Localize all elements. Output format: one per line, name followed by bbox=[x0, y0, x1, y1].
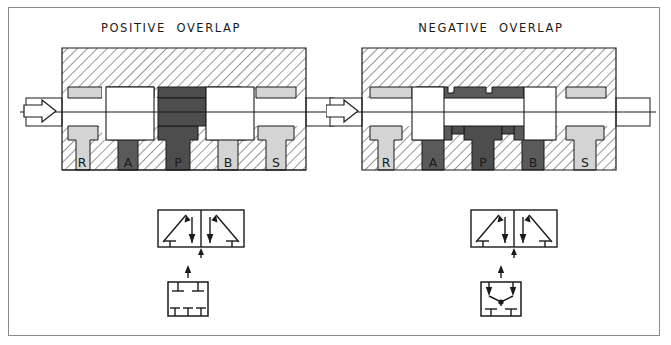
symbol-left-arrowheads-positive bbox=[185, 215, 196, 243]
figure-root: POSITIVE OVERLAP bbox=[0, 0, 671, 345]
panel-positive-overlap: POSITIVE OVERLAP bbox=[6, 0, 336, 345]
port-label-S: S bbox=[272, 155, 280, 170]
symbol-left-arrowheads-negative bbox=[498, 215, 509, 243]
port-label-S-neg: S bbox=[581, 155, 589, 170]
port-label-A-neg: A bbox=[429, 155, 438, 170]
symbol-actuator-arrow-up-positive bbox=[198, 248, 204, 258]
port-label-R: R bbox=[78, 155, 87, 170]
panel-title-negative-overlap: NEGATIVE OVERLAP bbox=[326, 21, 656, 35]
symbol-actuator-arrow-up-center-positive bbox=[185, 265, 191, 278]
valve-symbol-center-negative bbox=[326, 262, 656, 324]
valve-symbol-center-positive bbox=[6, 262, 336, 324]
port-label-B-neg: B bbox=[529, 155, 538, 170]
symbol-actuator-arrow-up-negative bbox=[511, 248, 517, 258]
port-label-R-neg: R bbox=[382, 155, 391, 170]
panel-title-positive-overlap: POSITIVE OVERLAP bbox=[6, 21, 336, 35]
port-label-B: B bbox=[224, 155, 233, 170]
valve-symbol-main-positive bbox=[6, 203, 336, 259]
port-label-A: A bbox=[124, 155, 133, 170]
panel-negative-overlap: NEGATIVE OVERLAP bbox=[326, 0, 656, 345]
symbol-actuator-arrow-up-center-negative bbox=[498, 265, 504, 278]
symbol-right-arrowheads-negative bbox=[520, 215, 531, 243]
valve-cross-section-negative-overlap: R A P B S bbox=[326, 40, 656, 200]
port-label-P-neg: P bbox=[479, 155, 487, 170]
valve-symbol-main-negative bbox=[326, 203, 656, 259]
port-label-P: P bbox=[174, 155, 182, 170]
valve-cross-section-positive-overlap: R A P B S bbox=[6, 40, 336, 200]
symbol-right-arrowheads-positive bbox=[207, 215, 218, 243]
